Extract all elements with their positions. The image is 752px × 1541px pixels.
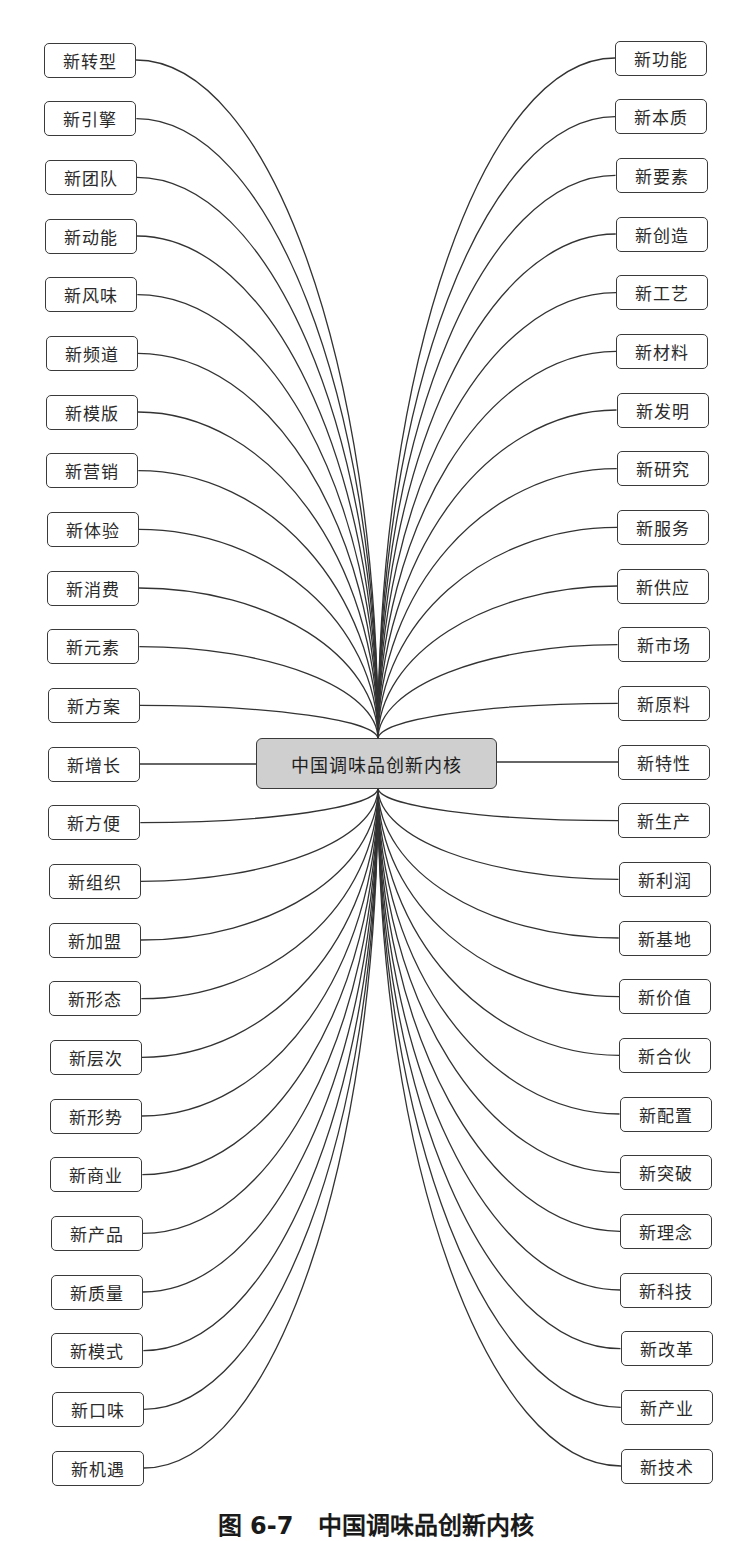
left-node: 新模式	[51, 1333, 143, 1368]
right-node-label: 新服务	[636, 515, 690, 540]
left-node: 新组织	[49, 864, 141, 899]
left-node: 新方案	[48, 688, 140, 723]
right-node: 新市场	[618, 627, 710, 662]
right-node-label: 新科技	[639, 1278, 693, 1303]
center-node-label: 中国调味品创新内核	[291, 751, 462, 777]
left-node: 新方便	[48, 805, 140, 840]
right-node-label: 新价值	[638, 984, 692, 1009]
connector-line	[378, 58, 615, 739]
right-node-label: 新原料	[637, 691, 691, 716]
connector-line	[143, 788, 378, 1233]
left-node: 新元素	[47, 629, 139, 664]
left-node: 新形势	[50, 1099, 142, 1134]
connector-line	[378, 175, 616, 739]
right-node: 新创造	[616, 217, 708, 252]
right-node: 新改革	[621, 1331, 713, 1366]
left-node-label: 新形态	[68, 986, 122, 1011]
right-node-label: 新供应	[636, 574, 690, 599]
left-node-label: 新消费	[66, 576, 120, 601]
right-node: 新利润	[619, 862, 711, 897]
left-node: 新增长	[48, 747, 140, 782]
connector-line	[378, 788, 619, 938]
right-node: 新价值	[619, 979, 711, 1014]
left-node-label: 新质量	[70, 1280, 124, 1305]
left-node: 新消费	[47, 571, 139, 606]
right-node-label: 新理念	[639, 1219, 693, 1244]
left-node: 新商业	[50, 1157, 142, 1192]
connector-line	[144, 788, 378, 1468]
right-node-label: 新创造	[635, 222, 689, 247]
left-node-label: 新动能	[64, 224, 118, 249]
right-node-label: 新特性	[637, 750, 691, 775]
right-node-label: 新生产	[637, 808, 691, 833]
left-node-label: 新方便	[67, 810, 121, 835]
connector-line	[136, 119, 378, 739]
right-node-label: 新利润	[638, 867, 692, 892]
right-node-label: 新基地	[638, 926, 692, 951]
connector-line	[143, 788, 378, 1351]
left-node-label: 新产品	[70, 1221, 124, 1246]
left-node-label: 新增长	[67, 752, 121, 777]
right-node-label: 新合伙	[638, 1043, 692, 1068]
left-node: 新风味	[45, 277, 137, 312]
connector-line	[140, 705, 378, 739]
connector-line	[378, 788, 620, 1231]
connector-line	[141, 788, 378, 940]
right-node: 新原料	[618, 686, 710, 721]
right-node: 新基地	[619, 921, 711, 956]
left-node: 新机遇	[52, 1451, 144, 1486]
left-node-label: 新商业	[69, 1162, 123, 1187]
right-node: 新特性	[618, 745, 710, 780]
left-node-label: 新营销	[65, 458, 119, 483]
connector-line	[378, 703, 618, 739]
right-node: 新供应	[617, 569, 709, 604]
connector-line	[378, 586, 617, 739]
right-node: 新材料	[616, 334, 708, 369]
connector-line	[378, 234, 616, 739]
right-node-label: 新功能	[634, 46, 688, 71]
right-node: 新产业	[621, 1390, 713, 1425]
connector-line	[138, 471, 378, 739]
connector-line	[144, 788, 378, 1409]
right-node-label: 新材料	[635, 339, 689, 364]
left-node-label: 新方案	[67, 693, 121, 718]
center-node: 中国调味品创新内核	[256, 738, 497, 789]
connector-line	[378, 527, 617, 739]
left-node: 新频道	[46, 336, 138, 371]
left-node: 新引擎	[44, 101, 136, 136]
right-node-label: 新要素	[635, 163, 689, 188]
connector-line	[142, 788, 378, 1057]
right-node-label: 新突破	[639, 1160, 693, 1185]
connector-line	[143, 788, 378, 1292]
right-node: 新本质	[615, 99, 707, 134]
left-node: 新转型	[44, 43, 136, 78]
left-node: 新形态	[49, 981, 141, 1016]
left-node-label: 新团队	[64, 165, 118, 190]
left-node-label: 新加盟	[68, 928, 122, 953]
left-node-label: 新机遇	[71, 1456, 125, 1481]
connector-line	[378, 788, 619, 997]
connector-line	[378, 788, 621, 1407]
left-node-label: 新模式	[70, 1338, 124, 1363]
right-node-label: 新发明	[636, 398, 690, 423]
connector-line	[139, 588, 378, 739]
connector-line	[378, 788, 620, 1290]
right-node-label: 新工艺	[635, 280, 689, 305]
connector-line	[378, 788, 619, 1055]
connector-line	[378, 788, 618, 821]
connector-line	[378, 788, 620, 1114]
right-node: 新研究	[617, 451, 709, 486]
connector-line	[141, 788, 378, 999]
left-node-label: 新频道	[65, 341, 119, 366]
right-node: 新服务	[617, 510, 709, 545]
right-node: 新科技	[620, 1273, 712, 1308]
right-node-label: 新配置	[639, 1102, 693, 1127]
left-node: 新营销	[46, 453, 138, 488]
right-node: 新生产	[618, 803, 710, 838]
connector-line	[137, 236, 378, 739]
right-node-label: 新本质	[634, 104, 688, 129]
connector-line	[137, 295, 378, 739]
connector-line	[378, 469, 617, 739]
left-node: 新产品	[51, 1216, 143, 1251]
right-node: 新合伙	[619, 1038, 711, 1073]
